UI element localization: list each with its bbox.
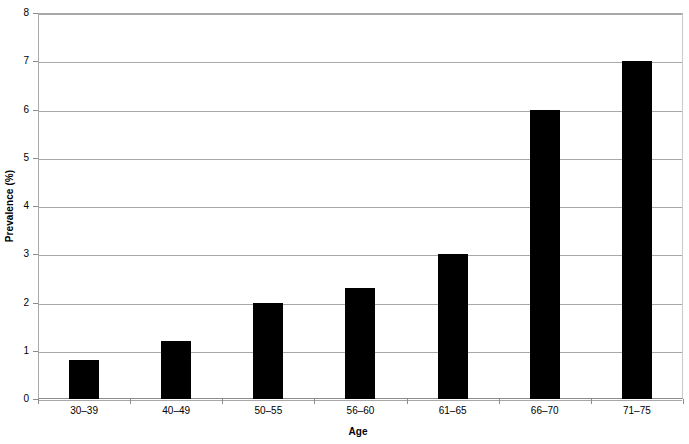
bar-slot	[314, 13, 406, 399]
y-tick: 1	[0, 345, 38, 357]
x-axis-category-label: 30–39	[38, 404, 130, 418]
x-axis-labels: 30–3940–4950–5556–6061–6566–7071–75	[38, 404, 683, 418]
bar[interactable]	[438, 254, 468, 399]
bar[interactable]	[161, 341, 191, 399]
y-tick: 7	[0, 55, 38, 67]
bar-chart: Prevalence (%) 012345678 30–3940–4950–55…	[0, 0, 689, 444]
bar-slot	[499, 13, 591, 399]
bar[interactable]	[345, 288, 375, 399]
x-axis-category-label: 71–75	[591, 404, 683, 418]
x-axis-category-label: 40–49	[130, 404, 222, 418]
bar-slot	[222, 13, 314, 399]
y-tick-label: 3	[23, 248, 29, 260]
x-axis-category-label: 66–70	[499, 404, 591, 418]
y-axis-ticks: 012345678	[0, 13, 38, 399]
x-axis-category-label: 50–55	[222, 404, 314, 418]
y-tick: 4	[0, 200, 38, 212]
x-axis-category-label: 61–65	[407, 404, 499, 418]
y-tick: 6	[0, 104, 38, 116]
bar-slot	[407, 13, 499, 399]
y-tick-label: 0	[23, 393, 29, 405]
bar-slot	[130, 13, 222, 399]
bar-slot	[38, 13, 130, 399]
bar[interactable]	[530, 110, 560, 400]
y-tick: 5	[0, 152, 38, 164]
y-tick: 3	[0, 248, 38, 260]
bar[interactable]	[622, 61, 652, 399]
bars-layer	[38, 13, 683, 399]
bar[interactable]	[69, 360, 99, 399]
x-axis-title: Age	[318, 425, 398, 439]
x-axis-category-label: 56–60	[314, 404, 406, 418]
y-tick: 0	[0, 393, 38, 405]
y-tick-label: 7	[23, 55, 29, 67]
y-tick: 2	[0, 297, 38, 309]
y-tick-label: 2	[23, 297, 29, 309]
x-tick-mark	[683, 399, 684, 404]
y-tick-label: 1	[23, 345, 29, 357]
y-tick-label: 5	[23, 152, 29, 164]
bar[interactable]	[253, 303, 283, 400]
y-tick: 8	[0, 7, 38, 19]
y-tick-label: 4	[23, 200, 29, 212]
y-tick-label: 6	[23, 104, 29, 116]
bar-slot	[591, 13, 683, 399]
y-tick-label: 8	[23, 7, 29, 19]
